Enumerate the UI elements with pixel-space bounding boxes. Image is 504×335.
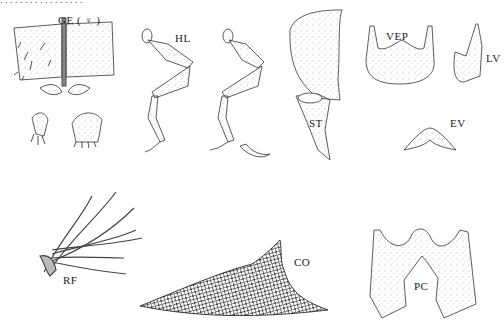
label-rf: RF (63, 274, 77, 286)
ev-drawing (404, 128, 456, 150)
anatomical-plate: . . . . . . . . . . . . . . . . . (0, 0, 504, 335)
label-st: ST (309, 117, 323, 129)
label-co: CO (294, 256, 310, 268)
hl-drawing (142, 29, 270, 157)
label-hl: HL (175, 32, 191, 44)
label-ev: EV (450, 117, 466, 129)
ge-drawing (14, 18, 114, 148)
rf-drawing (40, 192, 142, 276)
st-drawing (290, 10, 342, 160)
label-ge: GE ( ♀ ) (58, 14, 101, 26)
label-pc: PC (414, 280, 428, 292)
co-drawing (140, 240, 328, 316)
label-lv: LV (486, 52, 501, 64)
label-vep: VEP (386, 30, 408, 42)
lv-drawing (454, 24, 482, 82)
pc-drawing (370, 229, 476, 318)
